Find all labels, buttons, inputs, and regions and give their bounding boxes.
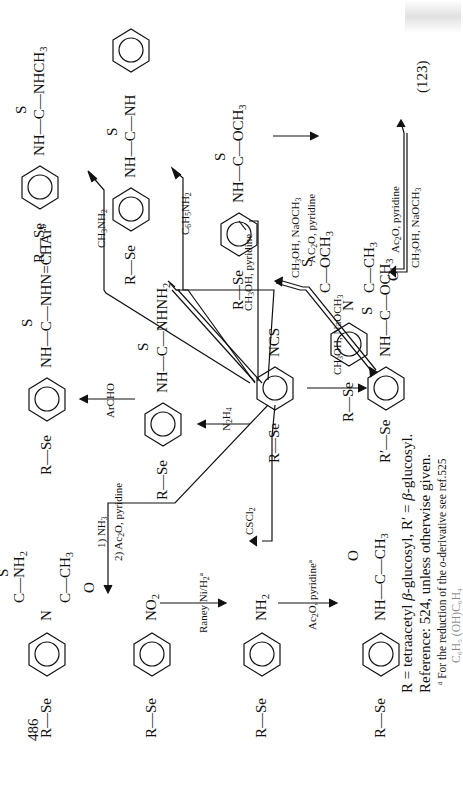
reagent-ch3nh2: CH3NH2 xyxy=(96,209,107,248)
reagent-ac2o-pyridine-n-acetylation: Ac2O, pyridine xyxy=(390,186,401,253)
compound-amine-substituent: R—Se xyxy=(254,698,269,738)
compound-thiocarbamate-group: NH—C—OCH3 xyxy=(231,104,246,203)
compound-n-acetyl-lower: C—CH3 xyxy=(362,242,377,293)
compound-n-acetyl-n: N xyxy=(341,300,356,311)
compound-thiosemicarbazide-substituent: R—Se xyxy=(155,460,170,500)
compound-methyl-thiourea-group: NH—C—NHCH3 xyxy=(32,47,47,156)
compound-thiosemicarbazide-group: NH—C—NHNH2 xyxy=(155,283,170,393)
compound-methyl-thiourea-s: S xyxy=(14,106,29,114)
caption-r-definition: R = tetraacetyl β-glucosyl, R′ = β-gluco… xyxy=(400,434,415,693)
compound-thiosemicarbazone-s: S xyxy=(20,319,35,327)
compound-nitro-substituent: R—Se xyxy=(144,698,159,738)
compound-acetyl-thiourea-lower: C—CH3 xyxy=(58,552,73,603)
benzene-ring-isothiocyanate xyxy=(257,367,293,410)
compound-acetyl-thiourea-substituent: R—Se xyxy=(39,698,54,738)
reagent-ch3oh-naoch3-reverse: CH3OH, NaOCH3 xyxy=(410,188,421,268)
benzene-ring-acetamide xyxy=(363,633,399,676)
page-binding-shadow xyxy=(405,0,461,33)
compound-phenyl-thiourea-group: NH—C—NH xyxy=(123,95,138,178)
compound-acetyl-thiourea-upper: C—NH2 xyxy=(12,551,27,603)
footnote-cutoff: C₆H₅ (OH)C₆H₄ xyxy=(451,588,463,663)
benzene-ring-phenyl-thiourea-b xyxy=(113,29,149,72)
compound-methyl-thiourea-substituent: R—Se xyxy=(32,223,47,263)
benzene-ring-thiosemicarbazone xyxy=(29,378,65,421)
footnote-a: a For the reduction of the o-derivative … xyxy=(437,458,449,685)
compound-thiocarbamate-s: S xyxy=(213,153,228,161)
reagent-ch3oh-naoch3-equilibrium: CH3OH, NaOCH3 xyxy=(290,198,301,278)
compound-phenyl-thiourea-s: S xyxy=(105,128,120,136)
compound-nitro-group: NO2 xyxy=(144,594,159,621)
compound-acetamide-substituent: R—Se xyxy=(373,698,388,738)
arrow-deacetylation-ac2o xyxy=(276,283,373,373)
reagent-c6h5nh2: C6H5NH2 xyxy=(180,192,191,235)
compound-phenyl-thiourea-substituent: R—Se xyxy=(123,245,138,285)
reagent-cscl2: CSCl2 xyxy=(244,507,255,535)
compound-isothiocyanate-group: NCS xyxy=(267,328,282,357)
reagent-ch3oh-naoch3-deacetylation: CH3OH, NaOCH3 xyxy=(332,295,343,375)
compound-acetyl-thiourea-o: O xyxy=(82,582,97,593)
benzene-ring-methyl-thiourea xyxy=(22,166,58,209)
reagent-archo: ArCHO xyxy=(105,383,116,418)
compound-amine-group: NH2 xyxy=(254,594,269,621)
benzene-ring-acetyl-thiourea xyxy=(29,633,65,676)
benzene-ring-phenyl-thiourea-a xyxy=(113,188,149,231)
compound-isothiocyanate-substituent: R—Se xyxy=(267,423,282,463)
benzene-ring-amine xyxy=(244,633,280,676)
caption-reference: Reference: 524, unless otherwise given. xyxy=(418,454,433,693)
benzene-ring-nitro xyxy=(134,633,170,676)
compound-thiosemicarbazone-substituent: R—Se xyxy=(39,435,54,475)
compound-acetamide-group: NH—C—CH3 xyxy=(373,533,388,621)
reagent-ac2o-pyridine-step2: 2) Ac2O, pyridine xyxy=(113,483,124,561)
compound-n-acetyl-o: O xyxy=(386,270,401,281)
compound-n-acetyl-upper: C—OCH3 xyxy=(318,231,333,293)
scheme-number: (123) xyxy=(415,61,430,94)
compound-deacetylated-s: S xyxy=(360,307,375,315)
arrow-ch3nh2 xyxy=(91,175,250,383)
compound-acetyl-thiourea-n: N xyxy=(39,610,54,621)
reagent-nh3: 1) NH3 xyxy=(96,516,107,548)
reagent-ch3oh-pyridine: CH3OH, pyridine xyxy=(243,234,254,311)
arrow-isothiocyanate-to-acetyl-thiourea xyxy=(108,405,268,591)
benzene-ring-thiosemicarbazide xyxy=(145,403,181,446)
compound-n-acetyl-substituent: R—Se xyxy=(341,382,356,422)
compound-acetyl-thiourea-s: S xyxy=(0,569,11,577)
reagent-ac2o-pyridine-acetylation: Ac2O, pyridinea xyxy=(307,560,318,630)
reagent-n2h4: N2H4 xyxy=(221,407,232,431)
compound-deacetylated-substituent: R′—Se xyxy=(378,420,393,463)
compound-acetamide-carbonyl-o: O xyxy=(346,550,361,561)
reagent-ac2o-pyridine-reverse: AC2O, pyridine xyxy=(306,194,317,263)
reagent-raney-ni: Raney Ni/H2a xyxy=(198,573,209,633)
compound-thiosemicarbazide-s: S xyxy=(136,343,151,351)
